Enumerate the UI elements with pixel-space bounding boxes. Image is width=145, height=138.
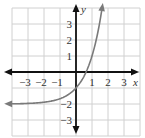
y-axis-label: y — [80, 3, 86, 15]
x-tick-label: 3 — [121, 76, 127, 88]
x-axis-left-arrow-icon — [4, 69, 12, 76]
curve-up-arrow-icon — [98, 3, 105, 11]
x-axis-label: x — [132, 76, 138, 88]
x-tick-label: −1 — [51, 76, 63, 88]
exponential-curve — [7, 6, 102, 104]
y-tick-label: −3 — [60, 114, 72, 126]
x-tick-label: −2 — [35, 76, 47, 88]
x-tick-label: 1 — [89, 76, 95, 88]
y-axis-down-arrow-icon — [73, 126, 80, 134]
x-tick-label: 2 — [105, 76, 111, 88]
y-tick-label: −2 — [60, 98, 72, 110]
y-tick-label: 1 — [67, 50, 73, 62]
curve-left-arrow-icon — [4, 101, 12, 108]
y-tick-label: 3 — [67, 18, 73, 30]
x-axis-right-arrow-icon — [131, 69, 139, 76]
x-tick-label: −3 — [19, 76, 31, 88]
y-tick-label: 2 — [67, 34, 73, 46]
function-graph: −3−2−1123321−2−3 x y — [0, 0, 145, 138]
